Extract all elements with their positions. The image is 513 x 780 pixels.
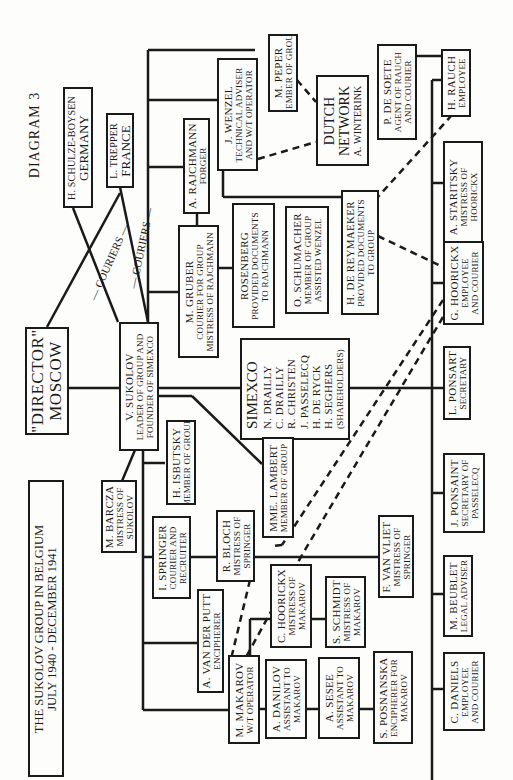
node-mme-lambert: MME. LAMBERTMEMBER OF GROUP — [262, 437, 294, 538]
node-de-reymaeker: H. DE REYMAEKERPROVIDED DOCUMENTSTO GROU… — [341, 190, 379, 315]
node-simexco: SIMEXCO N. DRAILLY C. DRAILLY R. CHRISTE… — [240, 338, 350, 440]
node-schulze-boysen: H. SCHULZE-BOYSENGERMANY — [63, 87, 93, 208]
node-director-moscow: "DIRECTOR" MOSCOW — [25, 327, 69, 435]
node-trepper: L. TREPPERFRANCE — [106, 113, 134, 188]
node-beublet: M. BEUBLETLEGAL ADVISER — [443, 555, 473, 637]
node-dutch-network: DUTCHNETWORKA. WINTERINK — [316, 75, 369, 166]
node-barcza: M. BARCZAMISTRESS OFSUKOLOV — [101, 480, 137, 553]
node-rosenberg: ROSENBERGPROVIDED DOCUMENTSTO RAJCHMANN — [232, 203, 275, 328]
node-rajchmann: A. RAJCHMANNFORGER — [183, 118, 210, 214]
node-gruber: M. GRUBERCOURIER FOR GROUPMISTRESS OF RA… — [178, 225, 219, 358]
title-line-2: JULY 1940 - DECEMBER 1941 — [46, 524, 59, 732]
node-sesee: A. SESEEASSISTANT TOMAKAROV — [318, 657, 360, 739]
node-makarov: M. MAKAROVW/T OPERATOR — [228, 655, 260, 744]
node-bloch: R. BLOCHMISTRESS OFSPRINGER — [216, 510, 255, 582]
node-sukolov: V. SUKOLOVLEADER OF GROUP ANDFOUNDER OF … — [119, 322, 159, 451]
node-c-hoorickx: C. HOORICKXMISTRESS OFMAKAROV — [270, 564, 312, 648]
node-de-soete: P. DE SOETEAGENT OF RAUCHAND COURIER — [377, 44, 417, 140]
node-van-vliet: F. VAN VLIETMISTRESS OFSPRINGER — [378, 515, 414, 598]
node-wenzel: J. WENZELTECHNICAL ADVISERAND W/T OPERAT… — [217, 58, 258, 171]
node-staritsky: A. STARITSKYMISTRESS OFHOORICKX — [443, 141, 483, 253]
diagram-label: DIAGRAM 3 — [20, 90, 50, 180]
node-springer: I. SPRINGERCOURIER ANDRECRUITER — [152, 516, 191, 599]
node-rauch: H. RAUCHEMPLOYEE — [441, 49, 471, 117]
node-l-ponsart: L. PONSARTSECRETARY — [443, 346, 471, 420]
node-c-daniels: C. DANIELSEMPLOYEEAND COURIER — [443, 652, 485, 731]
node-j-ponsaint: J. PONSAINTSECRETARY OFPASSELECQ — [443, 453, 485, 533]
node-peper: M. PEPERMEMBER OF GROUP — [268, 34, 298, 112]
node-isbutsky: H. ISBUTSKYMEMBER OF GROUP — [166, 420, 196, 505]
node-posnanska: S. POSNANSKAENCIPHERER FORMAKAROV — [373, 651, 413, 744]
node-van-der-putt: A. VAN DER PUTTENCIPHERER — [197, 589, 224, 693]
node-danilov: A. DANILOVASSISTANT TOMAKAROV — [265, 659, 307, 739]
node-s-schmidt: S. SCHMIDTMISTRESS OFMAKAROV — [325, 576, 366, 648]
node-g-hoorickx: G. HOORICKXEMPLOYEEAND COURIER — [443, 241, 484, 325]
title-box: THE SUKOLOV GROUP IN BELGIUM JULY 1940 -… — [28, 480, 64, 777]
node-schumacher: O. SCHUMACHERMEMBER OF GROUPASSISTED WEN… — [285, 206, 329, 314]
